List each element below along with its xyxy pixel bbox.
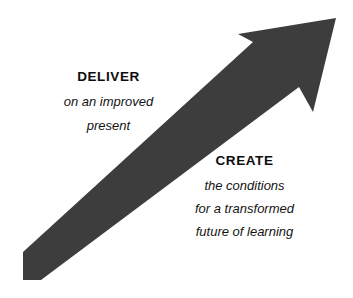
deliver-text-block: DELIVER on an improved present — [16, 70, 201, 132]
create-heading: CREATE — [152, 154, 337, 168]
deliver-heading: DELIVER — [16, 70, 201, 84]
create-line-1: the conditions — [152, 179, 337, 192]
arrow-shape — [23, 18, 336, 280]
deliver-line-1: on an improved — [16, 95, 201, 108]
arrow-graphic — [0, 0, 353, 298]
deliver-line-2: present — [16, 119, 201, 132]
create-line-2: for a transformed — [152, 202, 337, 215]
create-text-block: CREATE the conditions for a transformed … — [152, 154, 337, 238]
create-line-3: future of learning — [152, 225, 337, 238]
diagram-canvas: DELIVER on an improved present CREATE th… — [0, 0, 353, 298]
